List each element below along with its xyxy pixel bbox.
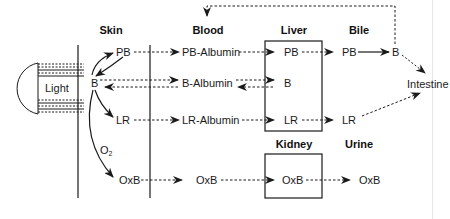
- liver-b: B: [284, 78, 291, 89]
- header-skin: Skin: [99, 25, 122, 36]
- kidney-oxb: OxB: [282, 175, 303, 186]
- header-blood: Blood: [192, 25, 223, 36]
- bile-pb: PB: [342, 47, 357, 58]
- bilirubin-phototherapy-diagram: Skin Blood Liver Bile Kidney Urine Light…: [0, 0, 450, 219]
- urine-oxb: OxB: [359, 175, 380, 186]
- header-kidney: Kidney: [276, 139, 313, 150]
- oxygen-label: O2: [100, 145, 112, 157]
- header-liver: Liver: [281, 25, 307, 36]
- bile-lr: LR: [342, 115, 356, 126]
- skin-pb: PB: [116, 47, 131, 58]
- page-edge-divider: [432, 0, 433, 219]
- blood-oxb: OxB: [196, 175, 217, 186]
- skin-oxb: OxB: [119, 175, 140, 186]
- light-label: Light: [45, 83, 69, 94]
- light-beams-lower: [38, 100, 84, 112]
- skin-lr: LR: [116, 115, 130, 126]
- header-urine: Urine: [345, 139, 373, 150]
- lamp-icon: [17, 63, 38, 114]
- skin-b: B: [91, 78, 98, 89]
- intestine-label: Intestine: [407, 79, 449, 90]
- blood-b-albumin: B-Albumin: [182, 78, 233, 89]
- header-bile: Bile: [349, 25, 369, 36]
- bile-b: B: [392, 47, 399, 58]
- liver-pb: PB: [284, 47, 299, 58]
- blood-pb-albumin: PB-Albumin: [182, 47, 240, 58]
- light-beams-upper: [38, 64, 84, 76]
- liver-lr: LR: [284, 115, 298, 126]
- diagram-graphics: [0, 0, 450, 219]
- blood-lr-albumin: LR-Albumin: [182, 115, 239, 126]
